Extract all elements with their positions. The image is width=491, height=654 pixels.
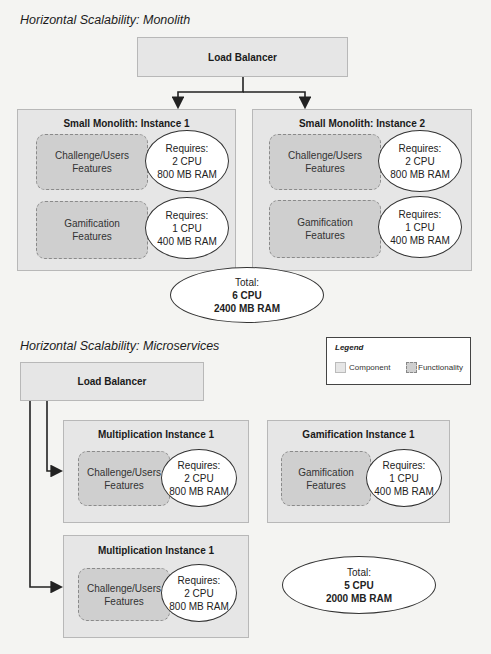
requirements-ellipse: Requires: 1 CPU 400 MB RAM xyxy=(366,449,442,507)
instance-title: Gamification Instance 1 xyxy=(268,429,449,440)
requirements-ellipse: Requires: 2 CPU 800 MB RAM xyxy=(161,449,237,507)
monolith-instance-1: Small Monolith: Instance 1 Challenge/Use… xyxy=(17,109,236,271)
legend-swatch-component xyxy=(335,362,346,373)
functionality-challenge-users: Challenge/UsersFeatures xyxy=(269,134,381,190)
legend-swatch-functionality xyxy=(406,362,417,373)
requirements-ellipse: Requires: 2 CPU 800 MB RAM xyxy=(145,130,229,192)
requirements-ellipse: Requires: 1 CPU 400 MB RAM xyxy=(378,196,462,258)
monolith-section-title: Horizontal Scalability: Monolith xyxy=(20,13,190,27)
monolith-instance-2: Small Monolith: Instance 2 Challenge/Use… xyxy=(252,109,472,271)
legend: Legend Component Functionality xyxy=(326,337,471,385)
instance-title: Small Monolith: Instance 1 xyxy=(18,118,235,129)
instance-title: Multiplication Instance 1 xyxy=(64,429,248,440)
microservices-total-ellipse: Total: 5 CPU 2000 MB RAM xyxy=(282,556,436,614)
gamification-instance-1: Gamification Instance 1 GamificationFeat… xyxy=(267,420,450,523)
functionality-gamification: GamificationFeatures xyxy=(281,451,371,506)
requirements-ellipse: Requires: 2 CPU 800 MB RAM xyxy=(161,564,237,622)
microservices-section-title: Horizontal Scalability: Microservices xyxy=(20,339,219,353)
multiplication-instance-1: Multiplication Instance 1 Challenge/User… xyxy=(63,420,249,523)
functionality-challenge-users: Challenge/UsersFeatures xyxy=(36,134,148,190)
legend-label-functionality: Functionality xyxy=(418,363,463,372)
functionality-challenge-users: Challenge/UsersFeatures xyxy=(78,568,170,621)
instance-title: Multiplication Instance 1 xyxy=(64,545,248,556)
functionality-gamification: GamificationFeatures xyxy=(36,201,148,259)
monolith-load-balancer: Load Balancer xyxy=(137,37,348,77)
legend-title: Legend xyxy=(335,343,363,352)
monolith-total-ellipse: Total: 6 CPU 2400 MB RAM xyxy=(170,267,324,323)
requirements-ellipse: Requires: 2 CPU 800 MB RAM xyxy=(378,130,462,192)
legend-label-component: Component xyxy=(349,363,390,372)
functionality-challenge-users: Challenge/UsersFeatures xyxy=(78,451,170,506)
microservices-load-balancer: Load Balancer xyxy=(20,362,204,401)
multiplication-instance-2: Multiplication Instance 1 Challenge/User… xyxy=(63,535,249,638)
functionality-gamification: GamificationFeatures xyxy=(269,200,381,258)
requirements-ellipse: Requires: 1 CPU 400 MB RAM xyxy=(145,197,229,259)
instance-title: Small Monolith: Instance 2 xyxy=(253,118,471,129)
